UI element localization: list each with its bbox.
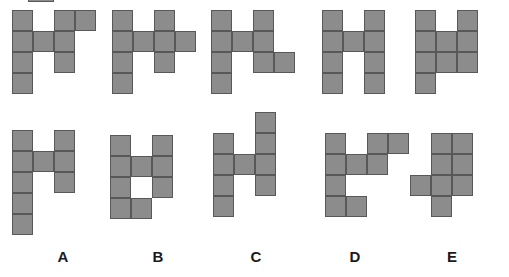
option-label-c: C — [241, 248, 271, 265]
shape-cell — [234, 154, 255, 175]
shape-cell — [112, 73, 133, 94]
shape-cell — [12, 52, 33, 73]
shape-cell — [452, 133, 473, 154]
shape-cell — [325, 175, 346, 196]
shape-cell — [364, 73, 385, 94]
shape-cell — [364, 52, 385, 73]
shape-cell — [12, 214, 33, 235]
shape-cell — [152, 177, 173, 198]
shape-cell — [110, 177, 131, 198]
option-label-a: A — [48, 248, 78, 265]
shape-cell — [54, 52, 75, 73]
shape-bottom-a[interactable] — [12, 130, 75, 235]
shape-cell — [152, 156, 173, 177]
shape-cell — [213, 196, 234, 217]
shape-cell — [255, 154, 276, 175]
shape-cell — [322, 73, 343, 94]
shape-cell — [152, 135, 173, 156]
shape-cell — [154, 10, 175, 31]
shape-cell — [346, 154, 367, 175]
shape-top-b[interactable] — [112, 10, 196, 94]
shape-cell — [431, 196, 452, 217]
shape-cell — [322, 52, 343, 73]
shape-cell — [211, 52, 232, 73]
shape-cell — [415, 10, 436, 31]
option-label-b: B — [143, 248, 173, 265]
shape-cell — [75, 10, 96, 31]
shape-cell — [436, 31, 457, 52]
shape-top-d[interactable] — [322, 10, 385, 94]
shape-cell — [12, 10, 33, 31]
shape-cell — [364, 31, 385, 52]
shape-cell — [54, 151, 75, 172]
shape-cell — [33, 31, 54, 52]
option-label-e: E — [437, 248, 467, 265]
shape-cell — [255, 175, 276, 196]
shape-cell — [131, 156, 152, 177]
shape-cell — [112, 31, 133, 52]
shape-cell — [457, 10, 478, 31]
shape-cell — [452, 154, 473, 175]
shape-cell — [211, 10, 232, 31]
shape-cell — [410, 175, 431, 196]
shape-cell — [367, 133, 388, 154]
shape-cell — [322, 31, 343, 52]
shape-cell — [431, 154, 452, 175]
shape-cell — [415, 52, 436, 73]
puzzle-board: ABCDE — [0, 0, 509, 277]
shape-cell — [54, 10, 75, 31]
shape-cell — [253, 31, 274, 52]
shape-cell — [253, 52, 274, 73]
shape-top-c[interactable] — [211, 10, 295, 94]
shape-cell — [431, 175, 452, 196]
shape-cell — [253, 10, 274, 31]
shape-cell — [457, 31, 478, 52]
shape-cell — [154, 52, 175, 73]
shape-cell — [367, 154, 388, 175]
shape-cell — [12, 172, 33, 193]
shape-top-a[interactable] — [12, 10, 96, 94]
shape-cell — [232, 31, 253, 52]
shape-cell — [12, 73, 33, 94]
shape-cell — [131, 198, 152, 219]
shape-bottom-e[interactable] — [410, 133, 473, 217]
shape-cell — [457, 52, 478, 73]
shape-cell — [255, 112, 276, 133]
shape-cell — [255, 133, 276, 154]
shape-cell — [436, 52, 457, 73]
shape-cell — [12, 31, 33, 52]
shape-cell — [12, 193, 33, 214]
option-label-d: D — [340, 248, 370, 265]
shape-bottom-d[interactable] — [325, 133, 409, 217]
shape-cell — [322, 10, 343, 31]
shape-cell — [346, 196, 367, 217]
shape-cell — [213, 154, 234, 175]
shape-cell — [110, 135, 131, 156]
clipped-top-fragment — [28, 0, 54, 2]
shape-cell — [364, 10, 385, 31]
shape-cell — [154, 31, 175, 52]
shape-cell — [343, 31, 364, 52]
shape-cell — [33, 151, 54, 172]
shape-cell — [415, 73, 436, 94]
shape-cell — [112, 10, 133, 31]
shape-cell — [133, 31, 154, 52]
shape-top-e[interactable] — [415, 10, 478, 94]
shape-cell — [175, 31, 196, 52]
shape-cell — [110, 156, 131, 177]
shape-cell — [54, 130, 75, 151]
shape-bottom-c[interactable] — [213, 112, 276, 217]
shape-bottom-b[interactable] — [110, 135, 173, 219]
shape-cell — [274, 52, 295, 73]
shape-cell — [12, 130, 33, 151]
shape-cell — [325, 196, 346, 217]
shape-cell — [54, 172, 75, 193]
shape-cell — [213, 175, 234, 196]
shape-cell — [415, 31, 436, 52]
shape-cell — [325, 133, 346, 154]
shape-cell — [110, 198, 131, 219]
shape-cell — [12, 151, 33, 172]
shape-cell — [54, 31, 75, 52]
shape-cell — [213, 133, 234, 154]
shape-cell — [112, 52, 133, 73]
